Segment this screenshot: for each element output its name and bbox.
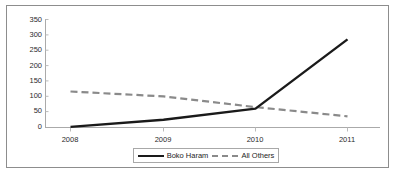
chart-legend: Boko Haram All Others — [133, 148, 279, 163]
legend-swatch-dashed-line-icon — [212, 155, 238, 157]
plot-area: 350 300 250 200 150 100 50 0 2008 2009 2… — [0, 0, 395, 174]
legend-label: Boko Haram — [167, 151, 209, 160]
legend-item-all-others: All Others — [212, 151, 274, 160]
legend-swatch-solid-line-icon — [138, 155, 164, 157]
legend-item-boko-haram: Boko Haram — [138, 151, 209, 160]
legend-label: All Others — [241, 151, 274, 160]
x-axis-ticks — [71, 128, 348, 132]
series-line-boko-haram — [71, 39, 348, 127]
series-line-all-others — [71, 92, 348, 117]
chart-figure: 350 300 250 200 150 100 50 0 2008 2009 2… — [0, 0, 395, 174]
